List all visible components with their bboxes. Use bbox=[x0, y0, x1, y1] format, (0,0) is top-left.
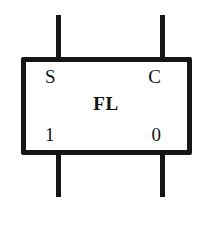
output-label-one: 1 bbox=[45, 125, 55, 144]
component-name-label: FL bbox=[93, 94, 118, 113]
pin-bottom-right[interactable] bbox=[160, 150, 165, 197]
output-label-zero: 0 bbox=[152, 125, 162, 144]
input-label-set: S bbox=[45, 67, 56, 86]
pin-top-left[interactable] bbox=[56, 15, 61, 63]
diagram-canvas: S C FL 1 0 bbox=[0, 0, 212, 226]
pin-top-right[interactable] bbox=[160, 15, 165, 63]
pin-bottom-left[interactable] bbox=[56, 150, 61, 197]
input-label-clear: C bbox=[148, 67, 161, 86]
